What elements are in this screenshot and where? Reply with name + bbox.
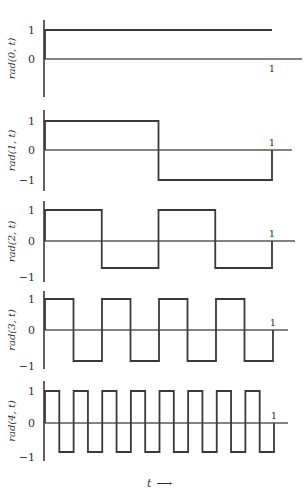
y-axis-label: rad(3, t) <box>6 309 17 351</box>
x-axis-label: t⟶ <box>147 477 172 490</box>
y-tick-label: 1 <box>28 293 35 306</box>
panel-rad-4: 10−1rad(4, t)1 <box>6 381 288 464</box>
x-tick-label-1: 1 <box>269 63 275 74</box>
y-tick-label: 0 <box>28 144 35 157</box>
right-arrow-icon: ⟶ <box>156 477 172 490</box>
panel-rad-1: 10−1rad(1, t)1 <box>6 110 292 191</box>
panel-rad-2: 10−1rad(2, t)1 <box>6 201 295 284</box>
x-tick-label-1: 1 <box>271 410 277 421</box>
waveform-rad-4 <box>45 391 274 452</box>
x-tick-label-1: 1 <box>269 228 275 239</box>
x-tick-label-1: 1 <box>269 137 275 148</box>
y-tick-label: −1 <box>19 174 35 187</box>
y-tick-label: −1 <box>19 360 35 373</box>
y-tick-label: 1 <box>28 385 35 398</box>
y-tick-label: −1 <box>19 271 35 284</box>
y-tick-label: 0 <box>28 235 35 248</box>
y-axis-label: rad(4, t) <box>6 400 17 442</box>
y-tick-label: 1 <box>28 204 35 217</box>
panel-rad-0: 10rad(0, t)1 <box>6 20 302 97</box>
y-tick-label: −1 <box>19 451 35 464</box>
panel-rad-3: 10−1rad(3, t)1 <box>6 291 288 373</box>
x-tick-label-1: 1 <box>270 317 276 328</box>
y-tick-label: 0 <box>28 324 35 337</box>
y-axis-label: rad(2, t) <box>6 221 17 263</box>
waveform-rad-2 <box>45 210 272 268</box>
x-axis-label-t: t <box>147 477 152 490</box>
y-tick-label: 0 <box>28 53 35 66</box>
y-tick-label: 1 <box>28 115 35 128</box>
waveform-rad-0 <box>45 30 272 59</box>
rademacher-functions-figure: 10rad(0, t)110−1rad(1, t)110−1rad(2, t)1… <box>0 0 308 498</box>
y-axis-label: rad(0, t) <box>6 38 17 80</box>
y-axis-label: rad(1, t) <box>6 130 17 172</box>
y-tick-label: 0 <box>28 417 35 430</box>
y-tick-label: 1 <box>28 24 35 37</box>
